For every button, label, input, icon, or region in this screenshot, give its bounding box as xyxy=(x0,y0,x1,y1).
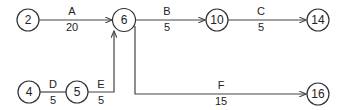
activity-label-f: F xyxy=(218,79,225,91)
node-14: 14 xyxy=(307,9,329,31)
activity-label-c: C xyxy=(257,5,265,17)
edge-e: E 5 xyxy=(88,31,114,106)
duration-label-d: 5 xyxy=(50,94,56,106)
activity-label-d: D xyxy=(49,78,57,90)
node-label-10: 10 xyxy=(210,13,224,27)
duration-label-c: 5 xyxy=(258,21,264,33)
node-label-16: 16 xyxy=(311,87,325,101)
node-label-14: 14 xyxy=(311,13,325,27)
node-16: 16 xyxy=(307,83,329,105)
node-label-5: 5 xyxy=(74,85,81,99)
edge-c: C 5 xyxy=(228,5,306,33)
node-5: 5 xyxy=(66,81,88,103)
node-6: 6 xyxy=(113,9,136,32)
activity-label-b: B xyxy=(163,5,170,17)
activity-label-a: A xyxy=(68,5,76,17)
network-diagram: A 20 B 5 C 5 D 5 E 5 F 15 2 6 10 xyxy=(0,0,344,110)
edge-f: F 15 xyxy=(135,26,306,107)
node-4: 4 xyxy=(18,81,40,103)
activity-label-e: E xyxy=(97,78,104,90)
duration-label-f: 15 xyxy=(215,95,227,107)
edge-a: A 20 xyxy=(39,5,112,33)
node-10: 10 xyxy=(206,9,228,31)
edge-d: D 5 xyxy=(40,78,66,106)
duration-label-a: 20 xyxy=(66,21,78,33)
duration-label-e: 5 xyxy=(98,94,104,106)
node-label-2: 2 xyxy=(25,13,32,27)
node-label-6: 6 xyxy=(121,13,128,27)
duration-label-b: 5 xyxy=(164,21,170,33)
edge-b: B 5 xyxy=(135,5,205,33)
node-2: 2 xyxy=(17,9,39,31)
node-label-4: 4 xyxy=(26,85,33,99)
